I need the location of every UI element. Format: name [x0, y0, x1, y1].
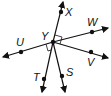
- ray-ys: [53, 42, 65, 92]
- label-y: Y: [41, 30, 49, 42]
- label-u: U: [16, 36, 24, 48]
- point-w: [90, 30, 94, 34]
- line-uw-left: [3, 42, 53, 57]
- label-t: T: [33, 71, 41, 83]
- label-w: W: [87, 16, 99, 28]
- point-v: [89, 50, 93, 54]
- label-s: S: [66, 66, 74, 78]
- right-angle-mark-ut: [46, 44, 51, 51]
- point-s: [60, 74, 64, 78]
- point-u: [19, 50, 23, 54]
- label-v: V: [87, 56, 96, 68]
- geometry-diagram: X W V U T S Y: [0, 0, 111, 96]
- point-x: [59, 10, 63, 14]
- point-t: [42, 77, 46, 81]
- point-y: [51, 40, 55, 44]
- label-x: X: [64, 6, 73, 18]
- ray-yv: [53, 42, 108, 58]
